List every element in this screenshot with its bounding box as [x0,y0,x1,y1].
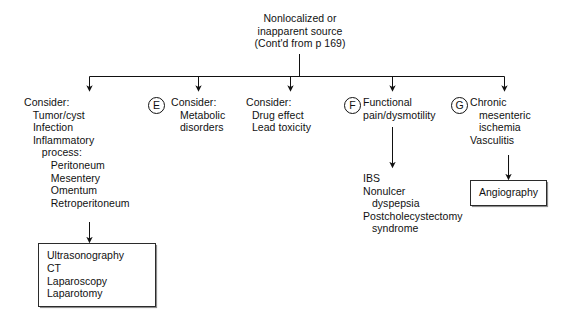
outcome-angiography-line-1: Angiography [479,186,538,199]
outcome-box-angiography: Angiography [470,180,547,206]
marker-e-icon: E [148,97,165,114]
root-node-line-1: Nonlocalized or [263,12,336,24]
outcome-imaging-line-4: Laparotomy [47,287,147,300]
branch-1-line-5: process: [24,146,82,158]
branch-2-label: Consider: Metabolic disorders [171,96,257,134]
branch-1-label: Consider: Tumor/cyst Infection Inflammat… [24,96,154,209]
branch-5-label: Chronic mesenteric ischemiaVasculitis [470,96,564,146]
marker-g-icon: G [451,97,468,114]
branch-4-sub-line-4: Postcholecystectomy [363,210,463,222]
branch-1-line-3: Infection [24,121,73,133]
branch-3-line-1: Consider: [246,96,291,108]
branch-5-line-3: ischemia [470,121,521,133]
root-node-line-2: inapparent source [258,25,343,37]
branch-2-line-2: Metabolic [171,109,225,121]
branch-1-line-1: Consider: [24,96,69,108]
root-node-line-3: (Cont'd from p 169) [254,37,345,49]
branch-3-line-3: Lead toxicity [246,121,311,133]
branch-3-line-2: Drug effect [246,109,304,121]
branch-1-line-7: Mesentery [24,172,100,184]
branch-1-line-4: Inflammatory [24,134,94,146]
branch-5-line-1: Chronic [470,96,507,108]
branch-4-label: Functionalpain/dysmotility [363,96,463,121]
branch-4-sublabel: IBSNonulcer dyspepsiaPostcholecystectomy… [363,172,473,235]
outcome-box-imaging: Ultrasonography CT Laparoscopy Laparotom… [38,243,156,307]
branch-4-sub-line-3: dyspepsia [363,197,420,209]
branch-2-line-3: disorders [171,121,224,133]
branch-1-line-2: Tumor/cyst [24,109,85,121]
outcome-imaging-line-3: Laparoscopy [47,275,147,288]
outcome-imaging-line-2: CT [47,262,147,275]
branch-1-line-6: Peritoneum [24,159,105,171]
branch-4-line-1: Functional [363,96,412,108]
branch-4-sub-line-5: syndrome [363,222,418,234]
branch-5-line-2: mesenteric [470,109,531,121]
branch-1-line-9: Retroperitoneum [24,197,130,209]
branch-4-sub-line-2: Nonulcer [363,185,405,197]
branch-3-label: Consider: Drug effect Lead toxicity [246,96,338,134]
marker-f-icon: F [344,97,361,114]
branch-4-line-2: pain/dysmotility [363,109,436,121]
outcome-imaging-line-1: Ultrasonography [47,249,147,262]
root-node: Nonlocalized orinapparent source(Cont'd … [212,12,388,50]
branch-2-line-1: Consider: [171,96,216,108]
branch-1-line-8: Omentum [24,184,97,196]
branch-5-line-4: Vasculitis [470,134,514,146]
flowchart-canvas: Nonlocalized orinapparent source(Cont'd … [0,0,568,320]
branch-4-sub-line-1: IBS [363,172,380,184]
